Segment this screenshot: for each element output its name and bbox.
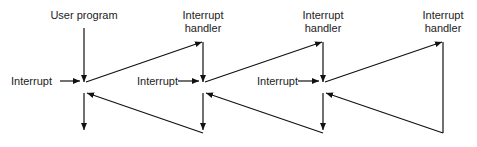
handler-label-3: Interrupt handler [413,9,473,35]
interrupt-label-3: Interrupt [257,75,298,88]
handler-label-1: Interrupt handler [173,9,233,35]
user-program-label: User program [44,9,124,22]
handler-label-3-line1: Interrupt [413,9,473,22]
handler-label-3-line2: handler [413,22,473,35]
handler-label-1-line1: Interrupt [173,9,233,22]
handler-label-2-line1: Interrupt [293,9,353,22]
handler-label-2-line2: handler [293,22,353,35]
nested-interrupt-diagram [0,0,477,147]
handler-label-1-line2: handler [173,22,233,35]
handler-label-2: Interrupt handler [293,9,353,35]
interrupt-label-1: Interrupt [11,75,52,88]
interrupt-label-2: Interrupt [137,75,178,88]
